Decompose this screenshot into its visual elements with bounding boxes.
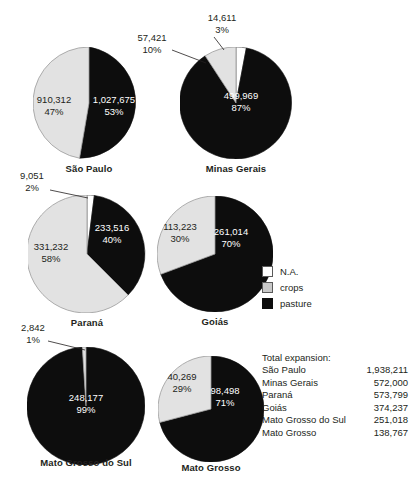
legend: N.A. crops pasture [262, 264, 362, 312]
slice-label-mato-grosso-crops: 40,269 29% [157, 371, 207, 394]
total-state-value: 573,799 [374, 389, 408, 402]
legend-label: crops [280, 282, 303, 293]
legend-swatch-pasture-icon [262, 298, 273, 309]
total-state-value: 251,018 [374, 414, 408, 427]
legend-swatch-crops-icon [262, 282, 273, 293]
slice-value: 40,269 [157, 371, 207, 383]
total-expansion-table: Total expansion: São Paulo 1,938,211 Min… [262, 352, 408, 440]
total-state-name: Mato Grosso [262, 427, 316, 440]
legend-label: pasture [280, 298, 312, 309]
table-row: Paraná 573,799 [262, 389, 408, 402]
state-label-mato-grosso-do-sul: Mato Grosso do Sul [27, 457, 145, 468]
legend-item-na[interactable]: N.A. [262, 264, 362, 278]
table-row: São Paulo 1,938,211 [262, 364, 408, 377]
state-label-mato-grosso: Mato Grosso [158, 462, 264, 473]
slice-percent: 71% [198, 397, 252, 409]
table-row: Goiás 374,237 [262, 402, 408, 415]
total-state-value: 1,938,211 [366, 364, 408, 377]
table-row: Minas Gerais 572,000 [262, 377, 408, 390]
table-row: Mato Grosso 138,767 [262, 427, 408, 440]
total-state-name: Minas Gerais [262, 377, 318, 390]
total-state-value: 138,767 [374, 427, 408, 440]
legend-item-crops[interactable]: crops [262, 280, 362, 294]
table-row: Mato Grosso do Sul 251,018 [262, 414, 408, 427]
legend-item-pasture[interactable]: pasture [262, 296, 362, 310]
total-state-value: 374,237 [374, 402, 408, 415]
total-state-name: Paraná [262, 389, 293, 402]
slice-percent: 29% [157, 383, 207, 395]
pie-chart-figure: 1,027,675 53% 910,312 47% São Paulo 499,… [0, 0, 411, 494]
total-expansion-title: Total expansion: [262, 352, 408, 363]
total-state-name: Mato Grosso do Sul [262, 414, 346, 427]
legend-label: N.A. [280, 266, 298, 277]
total-state-name: Goiás [262, 402, 287, 415]
legend-swatch-na-icon [262, 266, 273, 277]
total-state-name: São Paulo [262, 364, 306, 377]
total-state-value: 572,000 [374, 377, 408, 390]
